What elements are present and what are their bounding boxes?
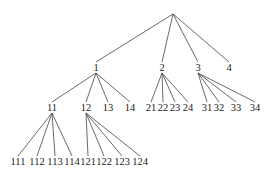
tree-node-label: 2	[159, 63, 164, 74]
tree-edge	[96, 14, 173, 62]
tree-edge	[151, 73, 162, 102]
tree-edge	[86, 113, 104, 156]
tree-node-label: 111	[11, 157, 26, 168]
tree-node-label: 23	[170, 103, 181, 114]
tree-edges	[0, 0, 271, 178]
tree-node-label: 12	[81, 103, 92, 114]
tree-node-label: 114	[64, 157, 79, 168]
tree-node-label: 32	[214, 103, 225, 114]
tree-edge	[37, 113, 52, 156]
tree-node-label: 4	[226, 63, 231, 74]
tree-edge	[86, 113, 140, 156]
tree-node-label: 112	[29, 157, 44, 168]
tree-edge	[162, 73, 163, 102]
tree-node-label: 14	[125, 103, 136, 114]
tree-edge	[52, 113, 55, 156]
tree-node-label: 31	[202, 103, 213, 114]
tree-node-label: 124	[132, 157, 148, 168]
tree-node-label: 123	[114, 157, 130, 168]
tree-node-label: 24	[183, 103, 194, 114]
tree-node-label: 1	[93, 63, 98, 74]
tree-edge	[198, 73, 255, 102]
tree-edge	[198, 73, 219, 102]
tree-edge	[162, 14, 173, 62]
tree-node-label: 121	[80, 157, 96, 168]
tree-edge	[86, 113, 122, 156]
tree-node-label: 33	[231, 103, 242, 114]
tree-node-label: 122	[96, 157, 112, 168]
tree-edge	[198, 73, 236, 102]
tree-node-label: 22	[158, 103, 169, 114]
tree-node-label: 11	[47, 103, 57, 114]
tree-edge	[18, 113, 52, 156]
tree-edge	[162, 73, 188, 102]
tree-edge	[173, 14, 229, 62]
tree-edge	[162, 73, 175, 102]
tree-edge	[198, 73, 207, 102]
tree-node-label: 113	[47, 157, 62, 168]
tree-edge	[96, 73, 130, 102]
tree-node-label: 21	[146, 103, 157, 114]
tree-node-label: 13	[103, 103, 114, 114]
tree-edge	[52, 113, 72, 156]
tree-edge	[86, 73, 96, 102]
tree-node-label: 34	[250, 103, 261, 114]
tree-edge	[86, 113, 88, 156]
tree-edge	[52, 73, 96, 102]
tree-edge	[173, 14, 198, 62]
tree-node-label: 3	[195, 63, 200, 74]
tree-edge	[96, 73, 108, 102]
